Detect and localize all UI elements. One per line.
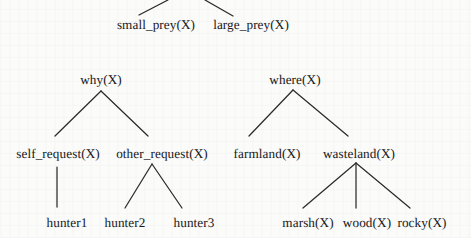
edge-wasteland-to-marsh — [303, 163, 356, 208]
edge-other_request-to-hunter2 — [125, 164, 152, 208]
edge-where-to-wasteland — [293, 90, 348, 136]
edge-hidden-parent-to-small_prey — [139, 0, 168, 15]
node-why: why(X) — [80, 73, 122, 87]
node-farmland: farmland(X) — [233, 147, 300, 161]
node-large-prey: large_prey(X) — [213, 18, 289, 32]
node-rocky: rocky(X) — [397, 216, 446, 230]
node-hunter1: hunter1 — [47, 216, 88, 230]
figure-canvas: small_prey(X) large_prey(X) why(X) where… — [0, 0, 471, 238]
node-self-request: self_request(X) — [16, 147, 100, 161]
edge-other_request-to-hunter3 — [152, 164, 182, 208]
node-marsh: marsh(X) — [282, 216, 333, 230]
node-where: where(X) — [269, 73, 320, 87]
edge-wasteland-to-rocky — [356, 163, 410, 208]
node-other-request: other_request(X) — [116, 147, 208, 161]
node-hunter3: hunter3 — [174, 216, 215, 230]
node-small-prey: small_prey(X) — [117, 18, 195, 32]
edge-where-to-farmland — [249, 90, 293, 136]
edge-why-to-self_request — [55, 91, 101, 136]
edge-why-to-other_request — [101, 91, 148, 136]
tree-edges — [0, 0, 471, 238]
node-hunter2: hunter2 — [105, 216, 146, 230]
node-wood: wood(X) — [343, 216, 391, 230]
node-wasteland: wasteland(X) — [323, 147, 395, 161]
edge-hidden-parent-to-large_prey — [205, 0, 233, 16]
